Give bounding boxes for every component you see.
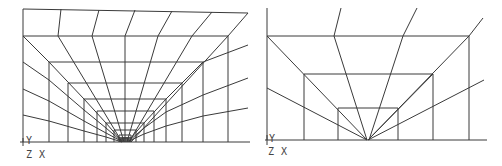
- left-mesh-panel: Y Z X: [0, 0, 251, 166]
- axis-label-x: X: [281, 147, 287, 157]
- axis-label-z: Z: [268, 147, 274, 157]
- right-mesh-drawing: [251, 0, 502, 166]
- left-mesh-drawing: [0, 0, 251, 166]
- axis-label-y: Y: [26, 136, 32, 146]
- right-mesh-panel: Y Z X: [251, 0, 502, 166]
- axis-label-y: Y: [269, 134, 275, 144]
- axis-label-z: Z: [26, 150, 32, 160]
- axis-label-x: X: [39, 150, 45, 160]
